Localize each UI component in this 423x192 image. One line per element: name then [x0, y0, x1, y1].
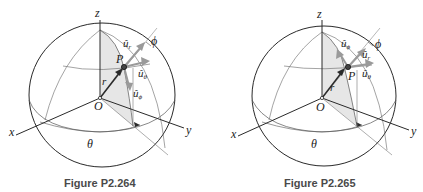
label-y: y: [186, 124, 191, 136]
u-r-arrowhead: [136, 42, 145, 51]
meridian-1: [45, 30, 100, 120]
u-theta-subscript: θ: [368, 73, 371, 81]
label-x: x: [9, 126, 14, 138]
label-p: P: [348, 70, 355, 82]
label-u-phi: ûϕ: [341, 38, 350, 51]
label-phi: ϕ: [151, 35, 157, 47]
label-z: z: [95, 7, 100, 19]
u-theta-subscript: θ: [144, 73, 147, 81]
label-y: y: [411, 125, 416, 137]
y-axis: [100, 98, 184, 128]
caption-left: Figure P2.264: [64, 177, 136, 189]
label-r: r⃗: [102, 76, 115, 87]
label-z: z: [317, 8, 322, 20]
label-x: x: [231, 128, 236, 140]
label-u-theta: ûθ: [362, 68, 371, 81]
label-phi: ϕ: [375, 38, 381, 50]
label-r: r⃗: [330, 82, 343, 93]
label-origin: O: [94, 100, 103, 112]
figure-right: z x y O P r⃗ θ ϕ ûr ûθ ûϕ Figure P2.265: [212, 0, 423, 192]
caption-right: Figure P2.265: [284, 177, 356, 189]
theta-arc: [40, 122, 140, 132]
theta-arc: [262, 122, 362, 132]
u-phi-subscript: ϕ: [347, 43, 351, 51]
label-u-phi: ûϕ: [133, 88, 142, 101]
sphere-diagram-left: [0, 0, 212, 192]
meridian-1: [269, 32, 322, 120]
label-u-theta: ûθ: [138, 68, 147, 81]
u-r-subscript: r: [129, 43, 132, 51]
x-axis: [238, 98, 322, 136]
label-u-r: ûr: [362, 49, 370, 62]
label-theta: θ: [87, 138, 93, 150]
u-r-subscript: r: [368, 54, 371, 62]
sphere-diagram-right: [212, 0, 423, 192]
x-axis: [16, 98, 100, 135]
label-p: P: [116, 53, 123, 65]
label-u-r: ûr: [123, 38, 131, 51]
u-phi-subscript: ϕ: [139, 93, 143, 101]
label-origin: O: [316, 101, 325, 113]
figure-left: z x y O P r⃗ θ ϕ ûr ûθ ûϕ Figure P2.264: [0, 0, 212, 192]
label-theta: θ: [311, 138, 317, 150]
